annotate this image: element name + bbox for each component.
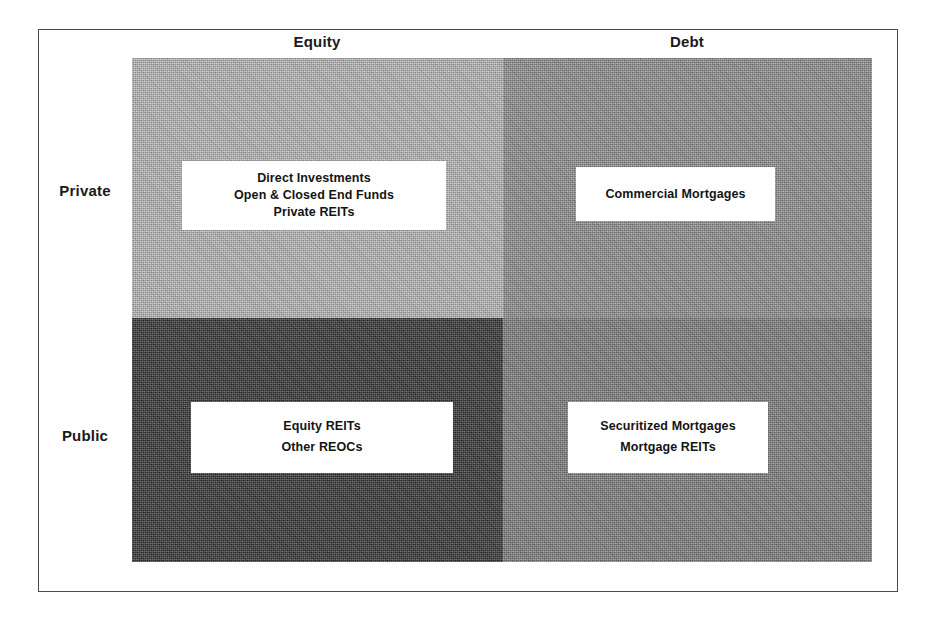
column-header-equity: Equity — [200, 33, 434, 50]
row-header-public: Public — [42, 427, 128, 444]
content-box-public-equity: Equity REITs Other REOCs — [191, 402, 453, 473]
content-box-public-debt: Securitized Mortgages Mortgage REITs — [568, 402, 768, 473]
matrix-grid: Direct Investments Open & Closed End Fun… — [132, 58, 872, 562]
item-label: Equity REITs — [283, 420, 360, 433]
item-label: Direct Investments — [257, 172, 371, 185]
item-label: Commercial Mortgages — [605, 188, 745, 201]
item-label: Private REITs — [274, 206, 355, 219]
column-header-debt: Debt — [570, 33, 804, 50]
content-box-private-debt: Commercial Mortgages — [576, 167, 775, 221]
diagram-page: Equity Debt Private Public Direct Invest… — [0, 0, 934, 623]
item-label: Other REOCs — [282, 441, 363, 454]
item-label: Securitized Mortgages — [600, 420, 735, 433]
row-header-private: Private — [42, 182, 128, 199]
item-label: Open & Closed End Funds — [234, 189, 394, 202]
content-box-private-equity: Direct Investments Open & Closed End Fun… — [182, 161, 446, 230]
item-label: Mortgage REITs — [620, 441, 716, 454]
